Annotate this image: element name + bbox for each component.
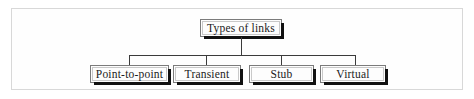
connector-drop-virtual bbox=[355, 55, 356, 65]
node-label: Transient bbox=[185, 68, 230, 80]
node-label: Stub bbox=[271, 68, 293, 80]
node-transient[interactable]: Transient bbox=[173, 65, 241, 83]
node-label: Virtual bbox=[336, 68, 369, 80]
node-types-of-links[interactable]: Types of links bbox=[200, 19, 282, 37]
connector-drop-stub bbox=[281, 55, 282, 65]
node-label: Types of links bbox=[207, 22, 275, 34]
node-stub[interactable]: Stub bbox=[249, 65, 314, 83]
connector-bus bbox=[129, 55, 356, 56]
node-point-to-point[interactable]: Point-to-point bbox=[90, 65, 169, 83]
connector-drop-transient bbox=[206, 55, 207, 65]
connector-root-stem bbox=[241, 37, 242, 56]
connector-drop-point-to-point bbox=[129, 55, 130, 65]
figure-canvas: Types of links Point-to-point Transient … bbox=[0, 0, 474, 99]
node-label: Point-to-point bbox=[96, 68, 163, 80]
node-virtual[interactable]: Virtual bbox=[320, 65, 386, 83]
